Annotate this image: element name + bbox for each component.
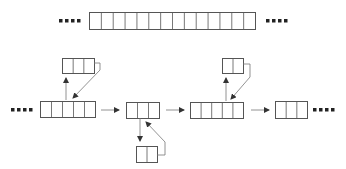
child-3 [223,59,244,74]
top-array [90,13,256,30]
node-4 [276,102,308,119]
ellipsis-top-left [59,19,81,23]
linked-arrays-diagram [0,0,346,169]
child-2 [137,147,158,163]
node-3 [191,103,244,119]
ellipsis-top-right [266,19,288,23]
node-1 [41,102,96,118]
node-2 [127,103,160,119]
child-1 [63,59,95,74]
ellipsis-right [313,108,335,112]
ellipsis-left [11,108,33,112]
